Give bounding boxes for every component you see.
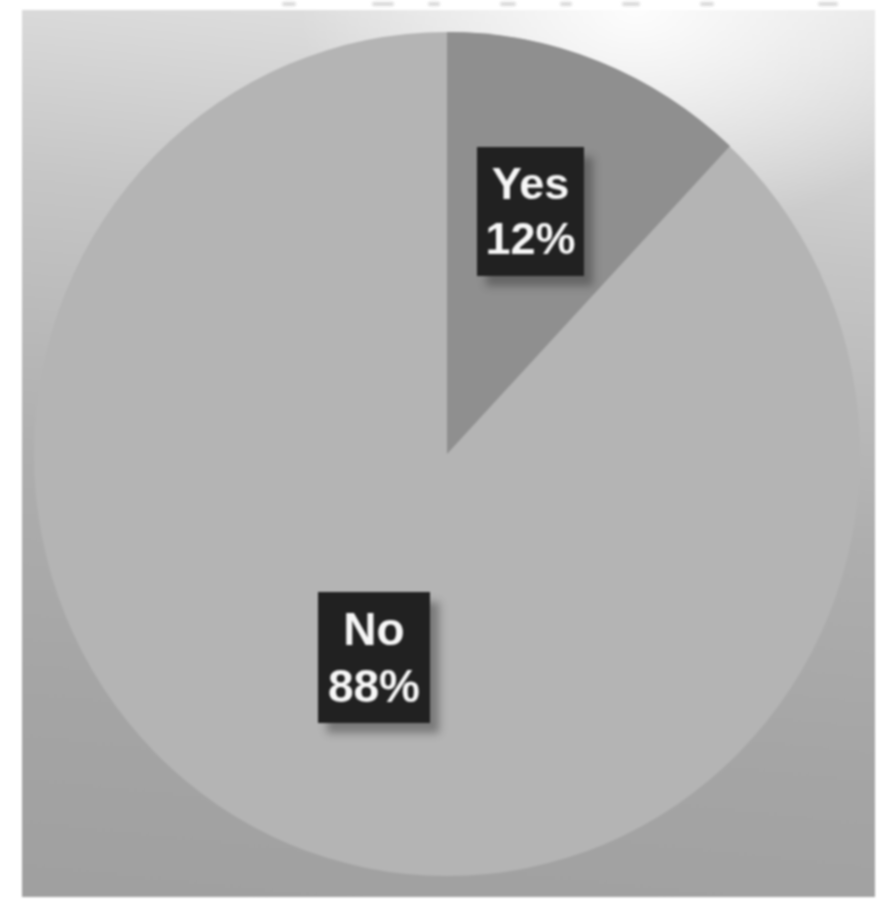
data-label-yes: Yes 12% <box>477 147 584 276</box>
data-label-yes-percent: 12% <box>485 212 575 267</box>
pie-chart <box>22 10 875 897</box>
scan-artifact <box>500 2 516 6</box>
pie-chart-figure: Yes 12% No 88% <box>22 10 875 897</box>
data-label-no-percent: 88% <box>328 658 420 714</box>
scan-artifact <box>622 2 640 6</box>
data-label-yes-category: Yes <box>492 157 570 212</box>
data-label-no-category: No <box>343 601 404 657</box>
scanned-page: Yes 12% No 88% <box>0 0 887 912</box>
scan-artifact <box>282 2 296 6</box>
scan-artifact <box>560 2 572 6</box>
scan-artifact <box>428 2 440 6</box>
scan-artifact <box>818 2 838 6</box>
scan-artifact <box>372 2 394 6</box>
scan-artifact <box>700 2 714 6</box>
data-label-no: No 88% <box>318 592 430 723</box>
